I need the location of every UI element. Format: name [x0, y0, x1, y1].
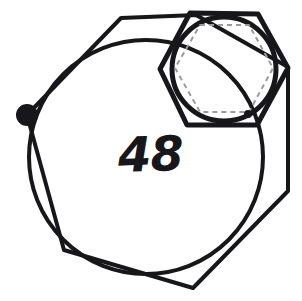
large-vertex-dot — [16, 104, 38, 126]
figure-canvas: 48 — [0, 0, 302, 301]
small-circle-dot — [244, 110, 252, 118]
figure-number-label: 48 — [117, 129, 184, 179]
